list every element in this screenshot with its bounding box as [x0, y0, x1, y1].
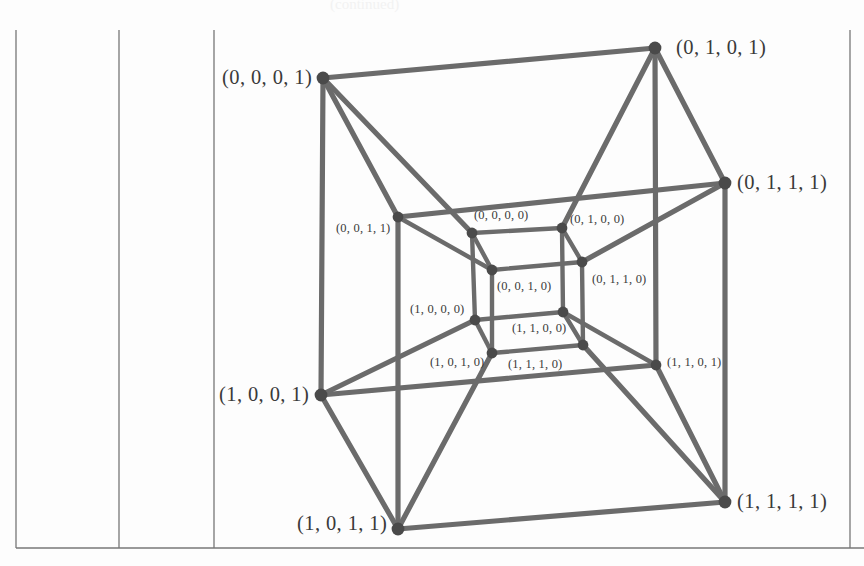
hypercube-edge-0010-0110	[492, 262, 582, 270]
hypercube-edge-0110-1110	[582, 262, 583, 345]
vertex-label-0111: (0, 1, 1, 1)	[737, 171, 827, 194]
vertex-label-0001: (0, 0, 0, 1)	[222, 66, 312, 89]
vertex-label-1111: (1, 1, 1, 1)	[737, 490, 827, 513]
hypercube-vertex-0110	[577, 257, 588, 268]
hypercube-edge-0100-0110	[562, 228, 582, 262]
hypercube-vertex-1011	[392, 523, 405, 536]
hypercube-edge-0001-1001	[321, 78, 323, 395]
table-rules	[16, 30, 864, 548]
vertex-label-1100: (1, 1, 0, 0)	[512, 321, 566, 336]
vertex-label-1001: (1, 0, 0, 1)	[219, 383, 309, 406]
hypercube-vertex-0100	[557, 223, 568, 234]
figure-page: (continued) (0, 0, 0, 1)(0, 1, 0, 1)(0, …	[0, 0, 864, 566]
hypercube-edge-0101-1101	[655, 48, 656, 365]
vertex-label-1011: (1, 0, 1, 1)	[297, 512, 387, 535]
vertex-label-0011: (0, 0, 1, 1)	[336, 221, 390, 236]
hypercube-edge-0000-0100	[472, 228, 562, 233]
hypercube-edge-0001-0101	[323, 48, 655, 78]
vertex-label-0110: (0, 1, 1, 0)	[592, 272, 646, 287]
hypercube-vertex-0011	[393, 212, 404, 223]
vertex-label-0010: (0, 0, 1, 0)	[497, 279, 551, 294]
vertex-label-1110: (1, 1, 1, 0)	[508, 357, 562, 372]
hypercube-vertex-1111	[719, 496, 732, 509]
vertex-label-1000: (1, 0, 0, 0)	[410, 302, 464, 317]
hypercube-vertex-0010	[487, 265, 498, 276]
vertex-label-0000: (0, 0, 0, 0)	[474, 208, 528, 223]
hypercube-vertex-1101	[651, 360, 662, 371]
hypercube-edge-1010-1110	[492, 345, 583, 353]
hypercube-vertex-1010	[487, 348, 498, 359]
vertex-label-1010: (1, 0, 1, 0)	[430, 355, 484, 370]
hypercube-edge-1000-1010	[475, 320, 492, 353]
hypercube-vertex-0000	[467, 228, 478, 239]
hypercube-edge-0101-0111	[655, 48, 725, 183]
hypercube-edge-1001-1011	[321, 395, 398, 529]
vertex-label-0100: (0, 1, 0, 0)	[570, 212, 624, 227]
vertex-label-0101: (0, 1, 0, 1)	[676, 36, 766, 59]
hypercube-vertex-0101	[649, 42, 662, 55]
hypercube-edge-0100-1100	[562, 228, 563, 312]
hypercube-vertex-1001	[315, 389, 328, 402]
hypercube-vertex-0001	[317, 72, 330, 85]
hypercube-edge-0000-1000	[472, 233, 475, 320]
hypercube-vertex-1000	[470, 315, 481, 326]
hypercube-vertex-1100	[558, 307, 569, 318]
hypercube-edge-1000-1100	[475, 312, 563, 320]
tesseract-figure	[0, 0, 864, 566]
vertex-label-1101: (1, 1, 0, 1)	[667, 355, 721, 370]
hypercube-edge-1011-1010	[398, 353, 492, 529]
hypercube-vertex-0111	[719, 177, 732, 190]
hypercube-edge-1011-1111	[398, 502, 725, 529]
hypercube-vertex-1110	[578, 340, 589, 351]
